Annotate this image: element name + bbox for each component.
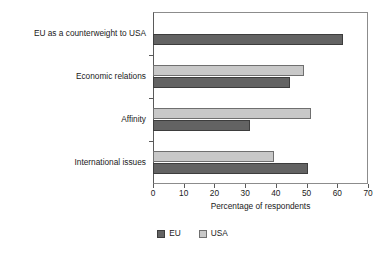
y-axis-tick	[149, 141, 153, 142]
x-axis-tick-label: 30	[232, 188, 258, 199]
bar-eu-2	[153, 77, 290, 88]
x-axis-tick-label: 70	[355, 188, 381, 199]
category-label-2: Economic relations	[0, 72, 146, 81]
x-axis-tick-label: 40	[263, 188, 289, 199]
x-axis-tick-labels: 010203040506070	[153, 188, 368, 200]
x-axis-tick-label: 50	[294, 188, 320, 199]
x-axis-tick-label: 20	[201, 188, 227, 199]
bars-layer	[153, 12, 368, 184]
legend-label: EU	[169, 229, 181, 238]
category-axis-labels: International issuesAffinityEconomic rel…	[0, 12, 150, 184]
category-label-0: International issues	[0, 158, 146, 167]
x-axis-tick-label: 0	[140, 188, 166, 199]
y-axis-tick	[149, 98, 153, 99]
bar-eu-0	[153, 163, 308, 174]
bar-usa-2	[153, 65, 304, 76]
legend-swatch-icon	[199, 230, 207, 238]
y-axis-tick	[149, 55, 153, 56]
bar-eu-3	[153, 34, 343, 45]
legend-swatch-icon	[157, 230, 165, 238]
bar-chart: International issuesAffinityEconomic rel…	[0, 0, 385, 256]
bar-eu-1	[153, 120, 250, 131]
x-axis-tick-label: 10	[171, 188, 197, 199]
legend-label: USA	[211, 229, 228, 238]
x-axis-title: Percentage of respondents	[153, 201, 368, 212]
legend-item-usa: USA	[199, 229, 228, 238]
legend-item-eu: EU	[157, 229, 181, 238]
x-axis-tick-label: 60	[324, 188, 350, 199]
category-label-1: Affinity	[0, 115, 146, 124]
chart-legend: EUUSA	[0, 229, 385, 238]
bar-usa-0	[153, 151, 274, 162]
bar-usa-1	[153, 108, 311, 119]
category-label-3: EU as a counterweight to USA	[0, 29, 146, 38]
